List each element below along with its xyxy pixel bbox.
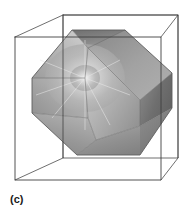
polyhedron-in-cube-illustration xyxy=(0,0,190,214)
figure-caption-label: (c) xyxy=(10,193,23,206)
figure-panel: (c) xyxy=(0,0,190,214)
